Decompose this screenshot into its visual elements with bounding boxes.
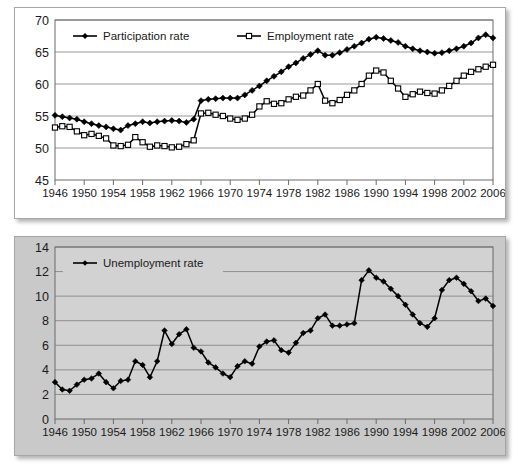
y-axis-ticks: 02468101214	[35, 241, 49, 427]
data-point-marker	[198, 111, 203, 116]
data-point-marker	[323, 98, 328, 103]
x-tick-label: 1962	[159, 187, 185, 199]
x-tick-label: 1946	[42, 187, 68, 199]
data-point-marker	[352, 88, 357, 93]
x-tick-label: 1998	[422, 426, 448, 438]
data-point-marker	[293, 94, 298, 99]
x-tick-label: 1946	[42, 426, 68, 438]
data-point-marker	[301, 93, 306, 98]
x-tick-label: 1998	[422, 187, 448, 199]
y-tick-label: 0	[42, 413, 49, 427]
y-tick-label: 8	[42, 314, 49, 328]
data-point-marker	[242, 116, 247, 121]
x-tick-label: 1970	[217, 426, 243, 438]
data-point-marker	[286, 97, 291, 102]
x-tick-label: 1994	[393, 426, 419, 438]
unemployment-rate-chart: 0246810121419461950195419581962196619701…	[15, 237, 505, 455]
data-point-marker	[257, 104, 262, 109]
legend: Unemployment rate	[63, 253, 223, 273]
data-point-marker	[104, 136, 109, 141]
x-tick-label: 1982	[305, 426, 331, 438]
x-tick-label: 1974	[247, 187, 273, 199]
data-point-marker	[155, 143, 160, 148]
data-point-marker	[125, 142, 130, 147]
data-point-marker	[177, 144, 182, 149]
data-point-marker	[169, 145, 174, 150]
y-axis-ticks: 455055606570	[35, 14, 49, 188]
data-point-marker	[425, 90, 430, 95]
labour-force-participation-employment-chart: 4550556065701946195019541958196219661970…	[15, 8, 505, 218]
x-axis-ticks: 1946195019541958196219661970197419781982…	[42, 419, 505, 438]
x-tick-label: 1986	[334, 426, 360, 438]
x-tick-label: 1978	[276, 426, 302, 438]
x-tick-label: 1986	[334, 187, 360, 199]
data-point-marker	[308, 88, 313, 93]
data-point-marker	[337, 97, 342, 102]
top-chart-panel: 4550556065701946195019541958196219661970…	[14, 7, 506, 219]
data-point-marker	[191, 138, 196, 143]
figure-container: 4550556065701946195019541958196219661970…	[0, 0, 520, 466]
data-point-marker	[447, 83, 452, 88]
data-point-marker	[490, 62, 495, 67]
x-tick-label: 1994	[393, 187, 419, 199]
legend-label: Employment rate	[267, 30, 354, 42]
x-tick-label: 1962	[159, 426, 185, 438]
x-tick-label: 1978	[276, 187, 302, 199]
data-point-marker	[147, 144, 152, 149]
x-tick-label: 1990	[363, 426, 389, 438]
data-point-marker	[366, 73, 371, 78]
x-tick-label: 1950	[71, 426, 97, 438]
data-point-marker	[417, 89, 422, 94]
x-tick-label: 1982	[305, 187, 331, 199]
x-tick-label: 2002	[451, 187, 477, 199]
x-tick-label: 1966	[188, 426, 214, 438]
data-point-marker	[396, 86, 401, 91]
data-point-marker	[469, 69, 474, 74]
y-tick-label: 12	[35, 265, 49, 279]
x-tick-label: 1958	[130, 426, 156, 438]
data-point-marker	[213, 112, 218, 117]
data-point-marker	[140, 140, 145, 145]
legend: Participation rateEmployment rate	[63, 26, 354, 46]
y-tick-label: 50	[35, 142, 49, 156]
x-tick-label: 1950	[71, 187, 97, 199]
data-point-marker	[111, 143, 116, 148]
x-tick-label: 1990	[363, 187, 389, 199]
data-point-marker	[315, 81, 320, 86]
y-tick-label: 4	[42, 363, 49, 377]
data-point-marker	[264, 99, 269, 104]
y-tick-label: 55	[35, 110, 49, 124]
data-point-marker	[403, 94, 408, 99]
y-tick-label: 65	[35, 46, 49, 60]
data-point-marker	[162, 143, 167, 148]
y-tick-label: 45	[35, 174, 49, 188]
bottom-chart-panel: 0246810121419461950195419581962196619701…	[14, 236, 506, 456]
data-point-marker	[74, 129, 79, 134]
data-point-marker	[483, 64, 488, 69]
data-point-marker	[374, 68, 379, 73]
legend-marker-swatch	[246, 33, 251, 38]
data-point-marker	[279, 101, 284, 106]
y-tick-label: 14	[35, 241, 49, 255]
x-tick-label: 1954	[101, 426, 127, 438]
data-point-marker	[52, 125, 57, 130]
data-point-marker	[96, 133, 101, 138]
data-point-marker	[228, 116, 233, 121]
data-point-marker	[133, 135, 138, 140]
data-point-marker	[330, 101, 335, 106]
data-point-marker	[388, 78, 393, 83]
x-tick-label: 1958	[130, 187, 156, 199]
data-point-marker	[60, 124, 65, 129]
y-tick-label: 10	[35, 290, 49, 304]
legend-label: Participation rate	[103, 30, 189, 42]
x-tick-label: 1954	[101, 187, 127, 199]
data-point-marker	[82, 133, 87, 138]
data-point-marker	[359, 81, 364, 86]
data-point-marker	[220, 113, 225, 118]
data-point-marker	[410, 92, 415, 97]
data-point-marker	[184, 142, 189, 147]
data-point-marker	[89, 131, 94, 136]
x-tick-label: 2006	[480, 187, 505, 199]
legend-label: Unemployment rate	[103, 257, 203, 269]
data-point-marker	[235, 117, 240, 122]
